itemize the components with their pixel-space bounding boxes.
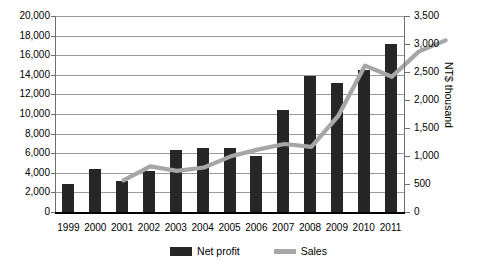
left-axis-tick — [51, 16, 55, 17]
legend-item-net-profit: Net profit — [170, 245, 240, 257]
x-axis-tick-label: 2003 — [161, 222, 191, 233]
x-axis-tick-label: 2010 — [349, 222, 379, 233]
left-axis-tick — [51, 212, 55, 213]
chart-legend: Net profit Sales — [0, 245, 497, 257]
right-axis-tick — [405, 16, 410, 17]
sales-line — [123, 40, 445, 180]
gridline — [55, 16, 404, 17]
x-axis-tick-label: 2007 — [268, 222, 298, 233]
legend-label-sales: Sales — [301, 245, 327, 257]
x-axis-tick-label: 2004 — [188, 222, 218, 233]
x-axis-tick-label: 2002 — [134, 222, 164, 233]
left-axis-tick-label: 8,000 — [4, 129, 50, 139]
left-axis-tick — [51, 153, 55, 154]
left-axis-tick — [51, 94, 55, 95]
x-axis-tick-label: 1999 — [53, 222, 83, 233]
left-axis-tick-label: 14,000 — [4, 70, 50, 80]
right-axis-tick — [405, 72, 410, 73]
left-axis-tick-label: 10,000 — [4, 109, 50, 119]
left-axis-tick-label: 6,000 — [4, 148, 50, 158]
left-axis-tick — [51, 173, 55, 174]
x-axis-tick-label: 2006 — [241, 222, 271, 233]
left-axis-tick-label: 2,000 — [4, 187, 50, 197]
x-axis-tick-label: 2011 — [376, 222, 406, 233]
x-axis-line — [55, 212, 405, 214]
right-axis-tick — [405, 156, 410, 157]
left-axis-tick-label: 20,000 — [4, 11, 50, 21]
left-axis-tick-label: 12,000 — [4, 89, 50, 99]
legend-item-sales: Sales — [274, 245, 327, 257]
right-axis-tick-label: 3,000 — [414, 39, 454, 49]
legend-swatch-line-icon — [274, 249, 296, 254]
plot-area — [55, 16, 404, 212]
left-axis-tick — [51, 75, 55, 76]
x-axis-tick-label: 2009 — [322, 222, 352, 233]
left-axis-tick — [51, 36, 55, 37]
right-axis-tick — [405, 212, 410, 213]
right-axis-tick — [405, 44, 410, 45]
left-axis-tick — [51, 192, 55, 193]
left-axis-tick — [51, 55, 55, 56]
sales-line-layer — [110, 32, 459, 229]
right-axis-tick — [405, 100, 410, 101]
left-axis-tick — [51, 134, 55, 135]
x-axis-tick-label: 2001 — [107, 222, 137, 233]
legend-label-net-profit: Net profit — [197, 245, 240, 257]
legend-swatch-bar-icon — [170, 247, 192, 256]
right-axis-tick — [405, 184, 410, 185]
right-axis-tick-label: 3,500 — [414, 11, 454, 21]
bar — [62, 184, 74, 212]
x-axis-tick-label: 2000 — [80, 222, 110, 233]
right-axis-tick-label: 0 — [414, 207, 454, 217]
bar — [89, 169, 101, 212]
left-axis-tick-label: 18,000 — [4, 31, 50, 41]
left-axis-tick-label: 0 — [4, 207, 50, 217]
right-axis-tick-label: 500 — [414, 179, 454, 189]
chart-container: 02,0004,0006,0008,00010,00012,00014,0001… — [0, 0, 497, 272]
left-axis-line — [55, 16, 56, 213]
right-axis-tick — [405, 128, 410, 129]
x-axis-tick-label: 2008 — [295, 222, 325, 233]
left-axis-tick — [51, 114, 55, 115]
left-axis-tick-label: 16,000 — [4, 50, 50, 60]
x-axis-tick-label: 2005 — [215, 222, 245, 233]
right-axis-title: NT$ thousand — [443, 62, 455, 172]
left-axis-tick-label: 4,000 — [4, 168, 50, 178]
